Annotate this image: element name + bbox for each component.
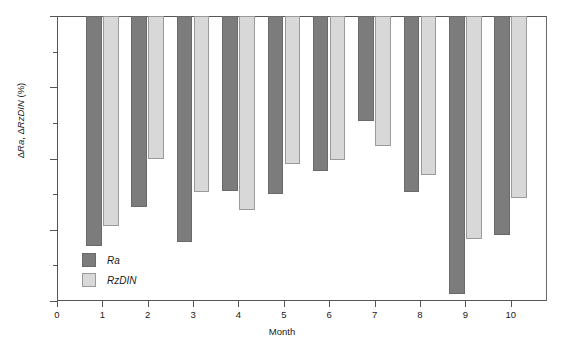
bar-ra-month-5: [268, 16, 284, 194]
legend-item-ra: Ra: [82, 250, 136, 270]
x-tick-label: 1: [84, 309, 120, 320]
bar-ra-month-7: [358, 16, 374, 121]
x-tick: [148, 301, 149, 307]
y-axis-title: ΔRa, ΔRzDIN (%): [15, 51, 26, 191]
x-tick: [284, 301, 285, 307]
legend-item-rzdin: RzDIN: [82, 270, 136, 290]
legend-label-ra: Ra: [107, 255, 120, 266]
bar-rzdin-month-2: [148, 16, 164, 159]
bar-ra-month-1: [86, 16, 102, 246]
bar-rzdin-month-10: [511, 16, 527, 198]
bar-rzdin-month-9: [466, 16, 482, 239]
x-tick-label: 4: [220, 309, 256, 320]
bar-ra-month-9: [449, 16, 465, 294]
x-tick: [57, 301, 58, 307]
x-axis-title: Month: [0, 326, 564, 337]
x-tick-label: 10: [493, 309, 529, 320]
bar-ra-month-3: [177, 16, 193, 242]
legend-swatch-ra: [82, 253, 96, 267]
legend-label-rzdin: RzDIN: [107, 275, 136, 286]
x-tick-label: 3: [175, 309, 211, 320]
x-tick-label: 0: [39, 309, 75, 320]
x-tick: [420, 301, 421, 307]
bar-rzdin-month-7: [375, 16, 391, 146]
x-tick: [465, 301, 466, 307]
x-tick: [329, 301, 330, 307]
y-tick-major: [50, 87, 57, 88]
x-tick-label: 7: [357, 309, 393, 320]
y-tick-major: [50, 16, 57, 17]
y-tick-minor: [53, 123, 57, 124]
y-tick-major: [50, 301, 57, 302]
bar-rzdin-month-4: [239, 16, 255, 210]
y-axis-title-d2: Δ: [15, 128, 26, 134]
y-axis-title-unit: (%): [15, 83, 26, 100]
x-tick-label: 5: [266, 309, 302, 320]
chart-legend: Ra RzDIN: [82, 250, 136, 290]
x-tick-label: 6: [311, 309, 347, 320]
y-tick-major: [50, 159, 57, 160]
bar-ra-month-10: [494, 16, 510, 235]
y-axis-title-d1: Δ: [15, 152, 26, 158]
bar-ra-month-2: [131, 16, 147, 207]
x-tick: [238, 301, 239, 307]
x-tick-label: 8: [402, 309, 438, 320]
x-tick-label: 9: [447, 309, 483, 320]
x-tick: [375, 301, 376, 307]
y-tick-minor: [53, 265, 57, 266]
bar-rzdin-month-1: [103, 16, 119, 226]
bar-ra-month-8: [404, 16, 420, 192]
chart-figure: 0−4−8−12−16 012345678910 ΔRa, ΔRzDIN (%)…: [0, 0, 564, 345]
y-axis-title-sep: ,: [15, 134, 26, 139]
plot-right-edge: [546, 16, 547, 301]
x-tick: [102, 301, 103, 307]
x-tick: [193, 301, 194, 307]
bar-ra-month-6: [313, 16, 329, 171]
bar-rzdin-month-8: [421, 16, 437, 175]
bar-rzdin-month-5: [285, 16, 301, 164]
x-tick: [511, 301, 512, 307]
legend-swatch-rzdin: [82, 273, 96, 287]
y-tick-major: [50, 230, 57, 231]
y-axis-title-rz: RzDIN: [15, 100, 26, 128]
y-tick-minor: [53, 52, 57, 53]
x-tick-label: 2: [130, 309, 166, 320]
y-tick-minor: [53, 194, 57, 195]
bar-rzdin-month-6: [330, 16, 346, 160]
y-axis-title-ra: Ra: [15, 140, 26, 152]
bar-ra-month-4: [222, 16, 238, 191]
bar-rzdin-month-3: [194, 16, 210, 192]
